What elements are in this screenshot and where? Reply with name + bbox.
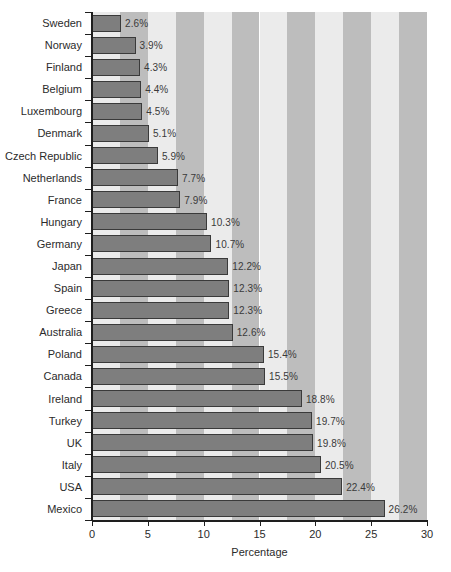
y-axis-tick <box>85 454 91 455</box>
y-axis-tick <box>85 432 91 433</box>
y-axis-label-poland: Poland <box>0 348 82 360</box>
y-axis-tick <box>85 34 91 35</box>
bar-value-label: 19.7% <box>316 415 345 426</box>
y-axis-label-canada: Canada <box>0 370 82 382</box>
y-axis-tick <box>85 520 91 521</box>
bar-row: 5.1% <box>92 125 427 142</box>
bar <box>92 302 229 319</box>
y-axis-tick <box>85 299 91 300</box>
bar-value-label: 22.4% <box>346 481 375 492</box>
bar-row: 4.3% <box>92 59 427 76</box>
bar-series: 2.6%3.9%4.3%4.4%4.5%5.1%5.9%7.7%7.9%10.3… <box>92 12 427 520</box>
x-axis-tick-label: 10 <box>198 528 210 540</box>
bar-row: 20.5% <box>92 456 427 473</box>
bar <box>92 125 149 142</box>
y-axis-tick <box>85 56 91 57</box>
bar-value-label: 19.8% <box>317 437 346 448</box>
y-axis-label-norway: Norway <box>0 39 82 51</box>
bar-row: 4.4% <box>92 81 427 98</box>
bar <box>92 191 180 208</box>
bar-value-label: 15.4% <box>268 349 297 360</box>
bar-value-label: 10.3% <box>211 216 240 227</box>
x-axis-title: Percentage <box>92 546 427 558</box>
bar-value-label: 4.3% <box>144 62 167 73</box>
bar-row: 2.6% <box>92 15 427 32</box>
y-axis-tick <box>85 211 91 212</box>
y-axis-line <box>91 12 93 521</box>
bar-row: 10.7% <box>92 235 427 252</box>
bar <box>92 346 264 363</box>
y-axis-label-czech-republic: Czech Republic <box>0 150 82 162</box>
plot-area: 2.6%3.9%4.3%4.4%4.5%5.1%5.9%7.7%7.9%10.3… <box>92 12 427 520</box>
y-axis-label-france: France <box>0 194 82 206</box>
y-axis-tick <box>85 145 91 146</box>
y-axis-tick <box>85 387 91 388</box>
bar <box>92 37 136 54</box>
y-axis-label-finland: Finland <box>0 61 82 73</box>
y-axis-label-denmark: Denmark <box>0 127 82 139</box>
x-axis-tick-label: 15 <box>253 528 265 540</box>
y-axis-label-japan: Japan <box>0 260 82 272</box>
x-axis-tick-label: 5 <box>145 528 151 540</box>
bar <box>92 59 140 76</box>
bar-row: 26.2% <box>92 500 427 517</box>
x-axis-tick <box>260 520 261 526</box>
bar <box>92 368 265 385</box>
bar-row: 7.9% <box>92 191 427 208</box>
bar-value-label: 15.5% <box>269 371 298 382</box>
bar-value-label: 12.3% <box>233 283 262 294</box>
bar-row: 19.7% <box>92 412 427 429</box>
bar-row: 7.7% <box>92 169 427 186</box>
y-axis-label-uk: UK <box>0 437 82 449</box>
y-axis-tick <box>85 498 91 499</box>
y-axis-tick <box>85 277 91 278</box>
bar <box>92 478 342 495</box>
y-axis-label-mexico: Mexico <box>0 503 82 515</box>
bar-row: 12.6% <box>92 324 427 341</box>
bar-value-label: 12.6% <box>237 327 266 338</box>
bar-chart: SwedenNorwayFinlandBelgiumLuxembourgDenm… <box>0 0 451 572</box>
bar <box>92 280 229 297</box>
y-axis-tick <box>85 233 91 234</box>
bar-row: 22.4% <box>92 478 427 495</box>
y-axis-tick <box>85 410 91 411</box>
bar-row: 19.8% <box>92 434 427 451</box>
bar-value-label: 5.1% <box>153 128 176 139</box>
x-axis-tick-label: 20 <box>309 528 321 540</box>
y-axis-tick <box>85 321 91 322</box>
bar <box>92 456 321 473</box>
y-axis-label-italy: Italy <box>0 459 82 471</box>
bar-row: 15.4% <box>92 346 427 363</box>
bar-row: 5.9% <box>92 147 427 164</box>
y-axis-tick <box>85 100 91 101</box>
bar-row: 15.5% <box>92 368 427 385</box>
bar <box>92 412 312 429</box>
bar-row: 10.3% <box>92 213 427 230</box>
bar-value-label: 12.3% <box>233 305 262 316</box>
y-axis-label-turkey: Turkey <box>0 415 82 427</box>
y-axis-label-sweden: Sweden <box>0 17 82 29</box>
bar-value-label: 2.6% <box>125 18 148 29</box>
bar <box>92 235 211 252</box>
y-axis-tick <box>85 476 91 477</box>
x-axis-tick <box>148 520 149 526</box>
bar-row: 3.9% <box>92 37 427 54</box>
x-axis-tick <box>427 520 428 526</box>
bar-row: 4.5% <box>92 103 427 120</box>
bar <box>92 500 385 517</box>
bar <box>92 258 228 275</box>
x-axis-tick-label: 25 <box>365 528 377 540</box>
y-axis-label-netherlands: Netherlands <box>0 172 82 184</box>
bar <box>92 434 313 451</box>
bar-value-label: 7.7% <box>182 172 205 183</box>
bar <box>92 103 142 120</box>
y-axis-tick <box>85 122 91 123</box>
bar-value-label: 4.5% <box>146 106 169 117</box>
bar-value-label: 4.4% <box>145 84 168 95</box>
bar-value-label: 5.9% <box>162 150 185 161</box>
bar <box>92 81 141 98</box>
x-axis-tick <box>371 520 372 526</box>
y-axis-tick <box>85 365 91 366</box>
y-axis-label-usa: USA <box>0 481 82 493</box>
bar-value-label: 10.7% <box>215 238 244 249</box>
